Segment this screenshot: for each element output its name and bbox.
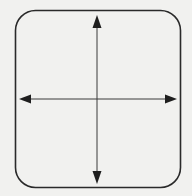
up-arrowhead-icon [93, 15, 102, 28]
horizontal-double-arrow [19, 95, 177, 104]
diagram-canvas [0, 0, 192, 196]
right-arrowhead-icon [165, 95, 177, 104]
down-arrowhead-icon [93, 171, 102, 184]
left-arrowhead-icon [19, 95, 31, 104]
